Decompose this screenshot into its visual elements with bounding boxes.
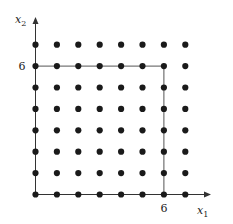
lattice-point bbox=[182, 84, 188, 90]
lattice-point bbox=[182, 149, 188, 155]
lattice-point bbox=[118, 170, 124, 176]
lattice-point bbox=[139, 149, 145, 155]
x-axis-label: x1 bbox=[197, 204, 208, 219]
lattice-point bbox=[97, 63, 103, 69]
lattice-point bbox=[32, 63, 38, 69]
lattice-point bbox=[54, 191, 60, 197]
lattice-point bbox=[118, 127, 124, 133]
lattice-point bbox=[75, 149, 81, 155]
lattice-point bbox=[75, 42, 81, 48]
lattice-point bbox=[32, 191, 38, 197]
lattice-point bbox=[161, 42, 167, 48]
lattice-point bbox=[139, 42, 145, 48]
lattice-point bbox=[139, 84, 145, 90]
lattice-point bbox=[54, 42, 60, 48]
lattice-point bbox=[161, 63, 167, 69]
lattice-point bbox=[75, 191, 81, 197]
lattice-point bbox=[118, 106, 124, 112]
lattice-point bbox=[97, 149, 103, 155]
lattice-point bbox=[97, 84, 103, 90]
lattice-point bbox=[161, 106, 167, 112]
lattice-point bbox=[182, 127, 188, 133]
lattice-point bbox=[75, 63, 81, 69]
lattice-point bbox=[118, 149, 124, 155]
lattice-point bbox=[32, 170, 38, 176]
lattice-point bbox=[139, 170, 145, 176]
lattice-point bbox=[139, 63, 145, 69]
lattice-point bbox=[75, 170, 81, 176]
lattice-point bbox=[182, 63, 188, 69]
lattice-point bbox=[54, 84, 60, 90]
lattice-point bbox=[54, 170, 60, 176]
lattice-point bbox=[32, 106, 38, 112]
lattice-point bbox=[139, 106, 145, 112]
lattice-point bbox=[75, 127, 81, 133]
lattice-point bbox=[32, 149, 38, 155]
lattice-point bbox=[182, 170, 188, 176]
lattice-point bbox=[32, 127, 38, 133]
lattice-point bbox=[118, 42, 124, 48]
lattice-point bbox=[97, 191, 103, 197]
lattice-point bbox=[118, 191, 124, 197]
lattice-point bbox=[75, 84, 81, 90]
y-axis-label: x2 bbox=[15, 13, 26, 28]
lattice-point bbox=[161, 149, 167, 155]
lattice-point bbox=[182, 191, 188, 197]
lattice-point bbox=[118, 84, 124, 90]
lattice-point bbox=[97, 127, 103, 133]
lattice-point bbox=[161, 191, 167, 197]
lattice-point bbox=[118, 63, 124, 69]
lattice-point bbox=[97, 170, 103, 176]
lattice-point bbox=[161, 84, 167, 90]
lattice-point bbox=[97, 106, 103, 112]
lattice-point bbox=[32, 42, 38, 48]
x-tick-label: 6 bbox=[161, 202, 168, 215]
lattice-point bbox=[54, 127, 60, 133]
lattice-point bbox=[54, 63, 60, 69]
lattice-diagram: 6 6 x1 x2 bbox=[0, 0, 233, 224]
lattice-point bbox=[54, 106, 60, 112]
lattice-point bbox=[75, 106, 81, 112]
lattice-point bbox=[139, 127, 145, 133]
lattice-point bbox=[54, 149, 60, 155]
lattice-points bbox=[32, 42, 188, 198]
y-tick-label: 6 bbox=[19, 60, 26, 73]
lattice-point bbox=[161, 170, 167, 176]
lattice-point bbox=[32, 84, 38, 90]
lattice-point bbox=[182, 106, 188, 112]
lattice-point bbox=[97, 42, 103, 48]
lattice-point bbox=[182, 42, 188, 48]
lattice-point bbox=[161, 127, 167, 133]
lattice-point bbox=[139, 191, 145, 197]
